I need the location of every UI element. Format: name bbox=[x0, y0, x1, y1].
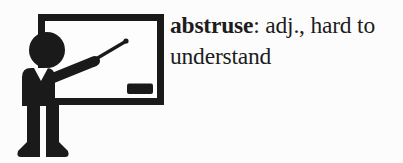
definition-text: abstruse: adj., hard to understand bbox=[170, 10, 400, 72]
teacher-pointing-at-whiteboard-icon bbox=[0, 0, 170, 163]
definition-rest: : adj., hard to bbox=[253, 12, 375, 38]
teacher-head bbox=[29, 32, 65, 68]
flashcard: abstruse: adj., hard to understand bbox=[0, 0, 403, 163]
teacher-hand bbox=[88, 57, 98, 67]
pointer-tip bbox=[123, 38, 128, 43]
definition-line-1: abstruse: adj., hard to bbox=[170, 10, 400, 41]
definition-line-2: understand bbox=[170, 41, 400, 72]
teacher-left-foot bbox=[17, 140, 40, 157]
board-eraser-icon bbox=[127, 84, 153, 95]
term-text: abstruse bbox=[170, 12, 253, 38]
teacher-right-foot bbox=[46, 140, 69, 157]
teacher-whiteboard-illustration bbox=[0, 0, 170, 163]
